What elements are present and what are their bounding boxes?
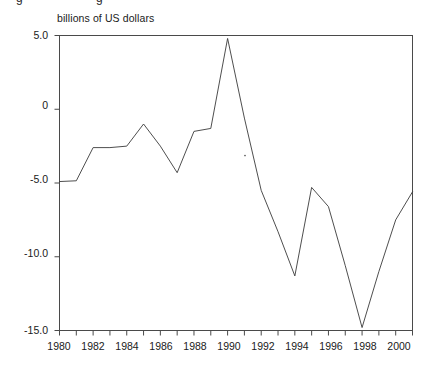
clipped-title-remnant: g g [0,0,432,7]
y-tick-label--5: -5.0 [4,174,48,185]
y-tick-label--15: -15.0 [4,325,48,336]
plot-canvas [0,0,432,367]
clipped-title-glyph-1: g [16,0,23,5]
data-line-balance [60,38,413,327]
y-tick-label-5: 5.0 [4,30,48,41]
y-axis-title: billions of US dollars [57,12,154,24]
y-tick-label--10: -10.0 [4,248,48,259]
clipped-title-glyph-2: g [96,0,103,5]
y-tick-label-0: 0 [4,100,48,111]
scan-speck-artifact [244,155,246,157]
chart-figure: g g billions of US dollars 5.0 0 -5.0 -1… [0,0,432,367]
x-tick-label-2000: 2000 [379,341,419,352]
y-tick-marks [55,36,60,331]
